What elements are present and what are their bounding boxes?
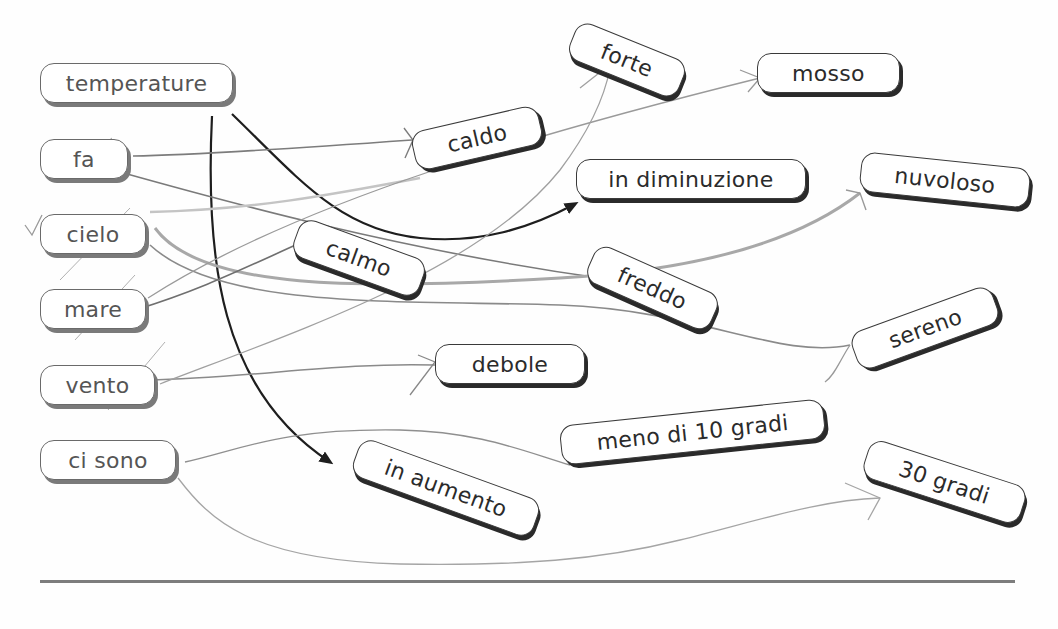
term-fa[interactable]: fa: [40, 139, 128, 179]
worksheet-canvas: temperature fa cielo mare vento ci sono …: [0, 0, 1058, 629]
term-label: mosso: [792, 61, 865, 86]
term-label: mare: [64, 297, 122, 322]
term-label: fa: [73, 147, 95, 172]
term-label: debole: [472, 352, 548, 377]
term-calmo[interactable]: calmo: [289, 216, 429, 299]
line-cielo-sereno: [150, 245, 850, 348]
term-label: freddo: [614, 262, 691, 315]
term-label: calmo: [323, 235, 396, 282]
line-vento-debole: [148, 365, 435, 380]
term-label: in diminuzione: [608, 167, 773, 192]
term-in-diminuzione[interactable]: in diminuzione: [576, 159, 806, 199]
term-vento[interactable]: vento: [40, 365, 155, 405]
arrow-temperature-in-aumento: [211, 116, 330, 462]
term-mosso[interactable]: mosso: [757, 53, 900, 93]
term-label: in aumento: [381, 454, 510, 521]
line-vento-forte: [160, 68, 610, 384]
line-mare-calmo: [135, 243, 300, 310]
term-label: caldo: [445, 119, 510, 157]
term-in-aumento[interactable]: in aumento: [349, 436, 543, 539]
term-label: sereno: [885, 303, 965, 353]
term-label: vento: [65, 373, 129, 398]
term-label: meno di 10 gradi: [595, 409, 789, 454]
term-meno-di-10-gradi[interactable]: meno di 10 gradi: [559, 398, 827, 465]
term-mare[interactable]: mare: [40, 289, 146, 329]
term-label: nuvoloso: [893, 162, 996, 197]
line-cielo-nuvoloso: [155, 193, 860, 284]
term-ci-sono[interactable]: ci sono: [40, 440, 176, 480]
section-divider: [40, 580, 1015, 583]
term-label: temperature: [66, 71, 208, 96]
term-label: ci sono: [68, 448, 148, 473]
term-forte[interactable]: forte: [565, 19, 689, 100]
term-nuvoloso[interactable]: nuvoloso: [858, 151, 1031, 209]
term-debole[interactable]: debole: [435, 344, 585, 384]
term-temperature[interactable]: temperature: [40, 63, 233, 103]
term-sereno[interactable]: sereno: [848, 284, 1003, 373]
term-cielo[interactable]: cielo: [40, 214, 146, 254]
term-caldo[interactable]: caldo: [409, 104, 545, 172]
term-30-gradi[interactable]: 30 gradi: [860, 437, 1029, 526]
term-label: 30 gradi: [896, 456, 993, 509]
term-label: forte: [597, 38, 656, 81]
term-freddo[interactable]: freddo: [583, 242, 723, 333]
line-fa-caldo: [133, 140, 412, 156]
term-label: cielo: [67, 222, 120, 247]
